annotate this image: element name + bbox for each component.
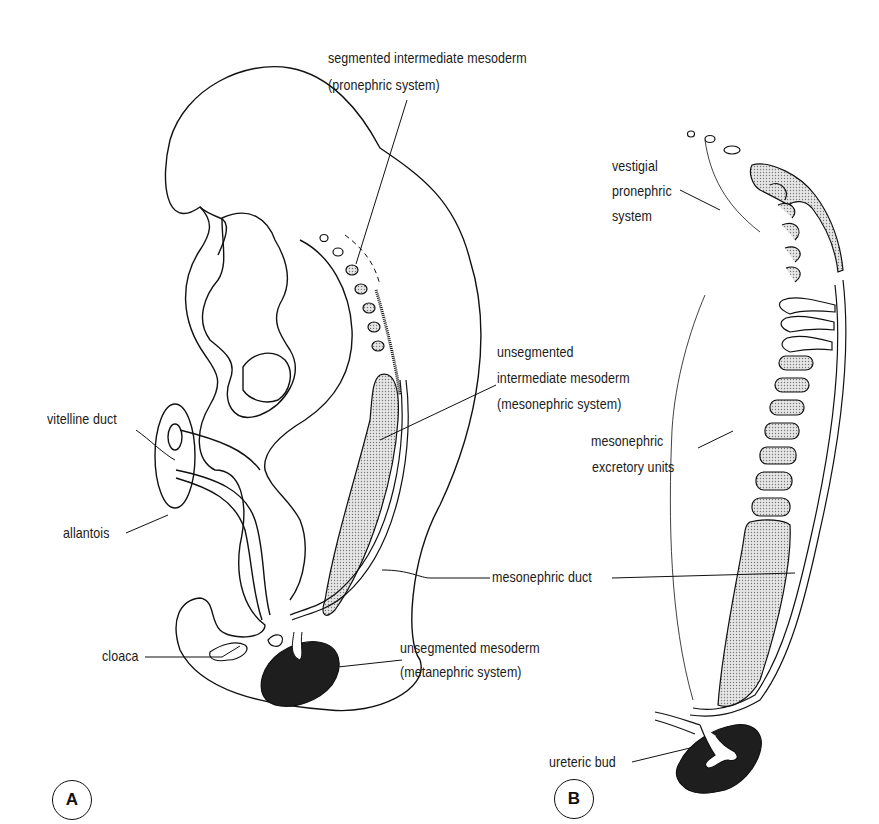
- label-cloaca: cloaca: [102, 648, 139, 665]
- label-metanephric-system: (metanephric system): [400, 664, 522, 681]
- label-vestigial: vestigial: [612, 158, 658, 175]
- cloaca-shape: [210, 643, 247, 661]
- label-mesonephric-duct: mesonephric duct: [492, 569, 592, 586]
- label-unsegmented: unsegmented: [497, 344, 574, 361]
- label-mesonephric: mesonephric: [591, 433, 663, 450]
- label-unsegmented-mesoderm: unsegmented mesoderm: [400, 640, 540, 657]
- gut-outline: [202, 213, 295, 417]
- label-mesonephric-system: (mesonephric system): [497, 396, 621, 413]
- label-allantois: allantois: [63, 525, 110, 542]
- label-segmented-intermediate-mesoderm: segmented intermediate mesoderm: [328, 50, 527, 67]
- mesonephric-excretory-units: [718, 298, 835, 706]
- label-vitelline-duct: vitelline duct: [47, 411, 117, 428]
- mesonephric-column-b: [718, 520, 790, 706]
- embryo-outer-outline: [165, 67, 480, 711]
- label-pronephric: pronephric: [612, 183, 672, 200]
- label-ureteric-bud: ureteric bud: [549, 754, 616, 771]
- label-intermediate-mesoderm: intermediate mesoderm: [497, 370, 630, 387]
- leader-lines: [126, 100, 795, 762]
- panel-a-marker: A: [52, 780, 92, 820]
- label-pronephric-system: (pronephric system): [328, 77, 440, 94]
- vitelline-duct-ring: [155, 404, 195, 508]
- label-system: system: [612, 208, 652, 225]
- panel-a-embryo: [155, 67, 481, 711]
- panel-b-marker: B: [554, 779, 594, 819]
- vestigial-pronephric-tubules: [688, 131, 844, 282]
- embryo-diagram: [0, 0, 879, 824]
- label-excretory-units: excretory units: [592, 459, 674, 476]
